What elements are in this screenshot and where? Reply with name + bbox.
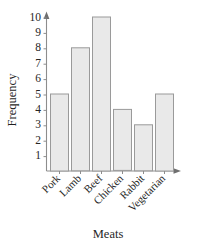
bar-pork — [51, 94, 69, 171]
y-tick-label-5: 5 — [35, 88, 41, 100]
bar-chart-figure: 1 2 3 4 5 6 7 8 9 10 — [0, 0, 210, 247]
y-tick-label-8: 8 — [35, 41, 41, 53]
bar-vegetarian — [156, 94, 174, 171]
bar-beef — [93, 17, 111, 171]
y-tick-label-2: 2 — [35, 134, 41, 146]
y-tick-label-4: 4 — [35, 103, 41, 115]
y-tick-label-10: 10 — [30, 11, 42, 23]
y-tick-label-6: 6 — [35, 72, 41, 84]
bar-chicken — [114, 109, 132, 170]
chart-canvas: 1 2 3 4 5 6 7 8 9 10 — [0, 0, 210, 247]
y-axis-title: Frequency — [5, 73, 19, 127]
bar-rabbit — [135, 125, 153, 171]
bar-lamb — [72, 48, 90, 171]
x-axis-title: Meats — [93, 227, 124, 241]
y-tick-label-3: 3 — [35, 118, 41, 130]
y-tick-label-9: 9 — [35, 26, 41, 38]
y-tick-label-7: 7 — [35, 57, 41, 69]
y-tick-label-1: 1 — [35, 149, 41, 161]
